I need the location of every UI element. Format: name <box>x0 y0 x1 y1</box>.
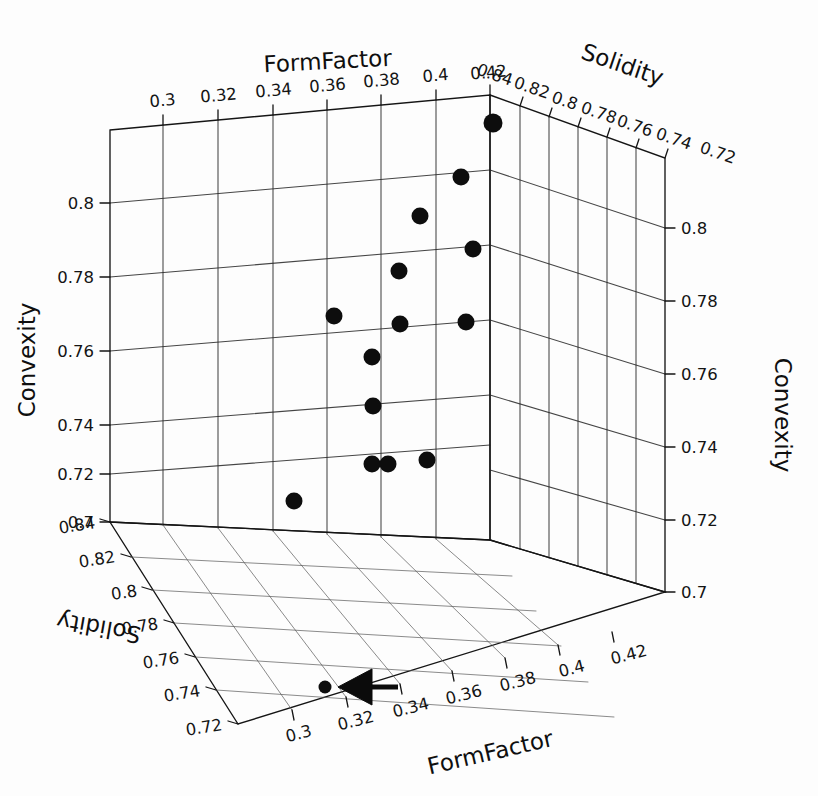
grid-floor-b <box>152 590 536 611</box>
tick-label: 0.76 <box>614 111 655 141</box>
tick-label: 0.82 <box>77 547 116 572</box>
tick-label: 0.4 <box>422 65 450 86</box>
data-point <box>326 308 343 325</box>
tick-label: 0.32 <box>336 707 376 734</box>
grid-floor-a <box>163 525 292 710</box>
tick-label: 0.4 <box>557 656 587 681</box>
data-point <box>391 263 408 280</box>
tick-label: 0.42 <box>609 641 649 668</box>
axis-title-convexity-right: Convexity <box>770 358 796 473</box>
tick <box>520 97 523 106</box>
tick-label: 0.74 <box>57 416 94 435</box>
tick-label: 0.8 <box>68 194 94 213</box>
tick-label: 0.36 <box>444 681 484 708</box>
tick <box>452 671 454 681</box>
grid-floor-a <box>218 528 346 697</box>
axis-title-solidity-top: Solidity <box>578 38 667 90</box>
tick-label: 0.82 <box>511 73 552 103</box>
tick-label: 0.3 <box>149 90 177 111</box>
tick-label: 0.76 <box>57 342 94 361</box>
tick-label: 0.8 <box>681 219 707 238</box>
tick-label: 0.32 <box>199 84 237 106</box>
tick-label: 0.72 <box>681 511 718 530</box>
tick-label: 0.78 <box>681 292 718 311</box>
tick-label: 0.34 <box>391 694 431 721</box>
tick-label: 0.76 <box>141 648 180 673</box>
back-left-wall-frame <box>110 95 490 540</box>
tick <box>636 139 639 148</box>
tick-label: 0.38 <box>362 69 400 91</box>
tick-labels-solidity-top: 0.84 0.82 0.8 0.78 0.76 0.74 0.72 <box>474 60 738 168</box>
tick-labels-convexity-left: 0.8 0.78 0.76 0.74 0.72 0.7 <box>57 194 94 532</box>
grid-floor-b <box>131 557 512 576</box>
tick-label: 0.74 <box>681 438 718 457</box>
data-point <box>364 456 381 473</box>
tick-label: 0.78 <box>578 98 619 128</box>
scatter3d-canvas: 0.3 0.32 0.34 0.36 0.38 0.4 0.42 0.84 0.… <box>0 0 818 796</box>
tick-label: 0.38 <box>498 668 538 695</box>
tick <box>558 645 560 655</box>
grid-h <box>110 320 490 351</box>
tick <box>612 632 614 642</box>
tick-label: 0.7 <box>681 583 707 602</box>
data-point <box>364 349 381 366</box>
grid-floor-b <box>174 623 561 646</box>
data-markers <box>286 114 503 694</box>
scatter3d-figure: 0.3 0.32 0.34 0.36 0.38 0.4 0.42 0.84 0.… <box>0 0 818 796</box>
data-point <box>380 456 397 473</box>
tick-label: 0.72 <box>184 715 223 740</box>
axis-title-solidity-left: Solidity <box>54 608 142 648</box>
tick-marks-convexity-right <box>665 228 675 592</box>
tick-label: 0.8 <box>549 88 580 115</box>
tick <box>121 554 131 557</box>
tick-label: 0.34 <box>254 79 292 101</box>
grid-floor-a <box>327 534 452 671</box>
tick-label-overlapped: 0.84 <box>474 60 515 90</box>
tick-labels-convexity-right: 0.8 0.78 0.76 0.74 0.72 0.7 <box>681 219 718 602</box>
back-left-wall <box>110 95 490 540</box>
tick-label: 0.36 <box>308 74 346 96</box>
back-right-wall <box>490 95 665 592</box>
tick-label: 0.8 <box>110 581 139 604</box>
data-point <box>465 241 482 258</box>
data-point <box>392 316 409 333</box>
tick-label: 0.74 <box>653 124 694 154</box>
grid-h <box>110 170 490 203</box>
tick-marks-convexity-left <box>100 203 110 522</box>
data-point <box>458 314 475 331</box>
grid-floor-a <box>381 537 505 658</box>
data-point <box>286 493 303 510</box>
tick <box>400 684 402 694</box>
tick-label: 0.3 <box>284 721 314 746</box>
grid-h <box>110 245 490 277</box>
tick <box>292 710 294 720</box>
data-point <box>453 169 470 186</box>
tick-label: 0.72 <box>697 138 738 168</box>
axis-title-convexity-left: Convexity <box>14 303 40 418</box>
data-point <box>365 398 382 415</box>
grid-floor-a <box>273 531 400 684</box>
tick-label: 0.78 <box>57 268 94 287</box>
tick <box>578 118 581 127</box>
tick-label: 0.72 <box>57 465 94 484</box>
axis-title-formfactor-bottom: FormFactor <box>425 725 556 779</box>
tick <box>665 149 668 158</box>
tick-label: 0.74 <box>162 681 201 706</box>
tick-label: 0.76 <box>681 365 718 384</box>
tick <box>142 587 152 590</box>
tick <box>607 128 610 137</box>
tick-label-overlapped: 0.84 <box>57 513 96 538</box>
data-point <box>484 114 503 133</box>
data-point <box>419 452 436 469</box>
data-point <box>319 681 332 694</box>
data-point <box>412 208 429 225</box>
tick <box>549 108 552 117</box>
grid-h <box>110 395 490 425</box>
tick <box>505 658 507 668</box>
